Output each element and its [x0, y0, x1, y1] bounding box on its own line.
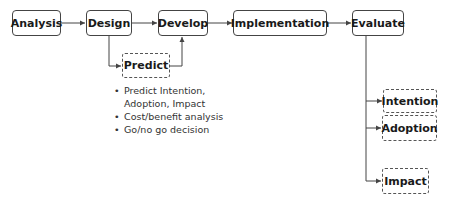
- adoption-label: Adoption: [381, 122, 437, 135]
- evaluate-node: Evaluate: [352, 10, 404, 36]
- predict-label: Predict: [124, 59, 168, 72]
- impact-node: Impact: [382, 168, 429, 194]
- analysis-label: Analysis: [11, 17, 63, 30]
- intention-node: Intention: [383, 89, 437, 113]
- implementation-label: Implementation: [231, 17, 330, 30]
- predict-note: Predict Intention, Adoption, Impact: [124, 84, 244, 110]
- evaluate-label: Evaluate: [351, 17, 405, 30]
- impact-label: Impact: [384, 175, 427, 188]
- develop-label: Develop: [158, 17, 208, 30]
- develop-node: Develop: [158, 10, 208, 36]
- analysis-node: Analysis: [12, 10, 61, 36]
- predict-note: Go/no go decision: [124, 123, 244, 136]
- predict-node: Predict: [122, 53, 170, 78]
- implementation-node: Implementation: [233, 10, 327, 36]
- adoption-node: Adoption: [382, 115, 437, 141]
- design-label: Design: [88, 17, 131, 30]
- design-node: Design: [86, 10, 132, 36]
- intention-label: Intention: [382, 95, 439, 108]
- predict-note: Cost/benefit analysis: [124, 110, 244, 123]
- predict-notes-list: Predict Intention, Adoption, Impact Cost…: [112, 84, 244, 136]
